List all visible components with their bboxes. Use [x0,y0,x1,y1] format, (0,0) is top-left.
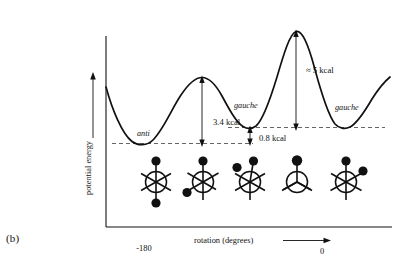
substituent-front-methyl [249,156,258,165]
substituent-back-methyl [151,198,160,207]
x-tick-label-zero: 0 [320,247,324,256]
x-tick-label-minus-180: -180 [136,244,151,253]
substituent-back-methyl [182,188,191,197]
energy-diagram-svg: potential energy 3.4 kcal ≈ 5 kcal 0.8 k… [0,0,398,262]
substituent-front-methyl [198,156,207,165]
barrier-2-label: ≈ 5 kcal [306,65,334,75]
substituent-back-methyl [232,163,241,172]
figure-background [0,0,398,262]
substituent-back-methyl [358,166,367,175]
substituent-front-methyl [341,156,350,165]
panel-label: (b) [6,232,19,244]
potential-energy-figure: potential energy 3.4 kcal ≈ 5 kcal 0.8 k… [0,0,398,262]
substituent-eclipsed-methyls [292,155,302,165]
gauche-label-2: gauche [335,103,359,112]
well-gap-label: 0.8 kcal [259,133,287,143]
barrier-1-label: 3.4 kcal [213,117,241,127]
substituent-front-methyl [151,156,160,165]
gauche-label-1: gauche [234,101,258,110]
x-axis-label: rotation (degrees) [194,236,254,245]
anti-well-label: anti [137,129,150,138]
y-axis-label: potential energy [84,140,93,195]
